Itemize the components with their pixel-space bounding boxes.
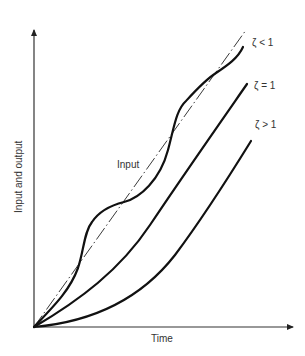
zeta-less-than-1-label: ζ < 1 <box>252 37 274 49</box>
zeta-greater-than-1-label: ζ > 1 <box>255 119 277 131</box>
zeta-equal-1-label: ζ = 1 <box>254 80 276 92</box>
y-axis-label: Input and output <box>13 140 24 213</box>
x-axis-label: Time <box>151 333 173 344</box>
curve-zeta-less-than-1 <box>34 47 243 327</box>
input-label: Input <box>117 159 139 170</box>
ramp-response-diagram: ζ < 1 ζ = 1 ζ > 1 Input Time Input and o… <box>0 0 305 356</box>
